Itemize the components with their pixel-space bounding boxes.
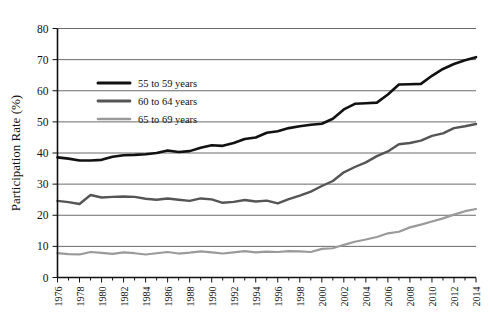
x-tick-label-2006: 2006 (383, 287, 394, 307)
series-line-2 (58, 124, 477, 204)
x-tick-label-1980: 1980 (97, 287, 108, 307)
x-tick-label-2002: 2002 (339, 287, 350, 307)
x-tick-label-1978: 1978 (75, 287, 86, 307)
legend-label-1: 55 to 59 years (138, 78, 197, 89)
x-tick-label-1988: 1988 (185, 287, 196, 307)
x-tick-label-2014: 2014 (471, 287, 482, 307)
chart-legend: 55 to 59 years60 to 64 years65 to 69 yea… (98, 78, 197, 125)
y-tick-label-20: 20 (37, 209, 49, 221)
y-tick-label-10: 10 (37, 240, 49, 252)
y-tick-label-40: 40 (37, 147, 49, 159)
data-series (58, 57, 477, 254)
y-tick-label-0: 0 (43, 272, 49, 284)
x-axis-ticks: 1976197819801982198419861988199019921994… (53, 278, 483, 307)
legend-label-2: 60 to 64 years (138, 96, 197, 107)
x-tick-label-1982: 1982 (119, 287, 130, 307)
x-tick-label-1976: 1976 (53, 287, 64, 307)
x-tick-label-1992: 1992 (229, 287, 240, 307)
chart-canvas: 01020304050607080 1976197819801982198419… (0, 0, 490, 322)
y-tick-label-50: 50 (37, 116, 49, 128)
x-tick-label-1994: 1994 (251, 287, 262, 307)
x-tick-label-2004: 2004 (361, 287, 372, 307)
x-tick-label-1996: 1996 (273, 287, 284, 307)
participation-rate-line-chart: 01020304050607080 1976197819801982198419… (0, 0, 490, 322)
x-tick-label-2000: 2000 (317, 287, 328, 307)
series-line-1 (58, 57, 477, 160)
y-axis-title: Participation Rate (%) (8, 95, 23, 211)
legend-label-3: 65 to 69 years (138, 114, 197, 125)
y-tick-label-70: 70 (37, 54, 49, 66)
y-tick-label-60: 60 (37, 85, 49, 97)
y-axis-ticks: 01020304050607080 (37, 23, 58, 284)
x-tick-label-1984: 1984 (141, 287, 152, 307)
x-tick-label-2012: 2012 (449, 287, 460, 307)
x-tick-label-1990: 1990 (207, 287, 218, 307)
gridlines (58, 29, 477, 247)
x-tick-label-1998: 1998 (295, 287, 306, 307)
x-tick-label-1986: 1986 (163, 287, 174, 307)
y-tick-label-30: 30 (37, 178, 49, 190)
x-tick-label-2008: 2008 (405, 287, 416, 307)
series-line-3 (58, 209, 477, 254)
x-tick-label-2010: 2010 (427, 287, 438, 307)
y-tick-label-80: 80 (37, 23, 49, 35)
